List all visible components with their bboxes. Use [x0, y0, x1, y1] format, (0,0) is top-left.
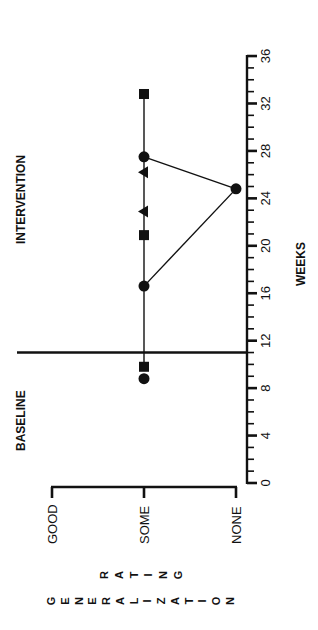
axis-title-letter: A: [114, 597, 126, 605]
square-marker: [139, 89, 149, 99]
axis-title-letter: I: [196, 599, 208, 602]
circle-marker: [139, 151, 150, 162]
week-tick-label: 8: [258, 385, 273, 392]
axis-title-letter: T: [183, 597, 195, 604]
axis-title-letter: T: [128, 571, 140, 578]
axis-title-letter: N: [224, 597, 236, 605]
rating-label-good: GOOD: [45, 504, 60, 544]
connecting-line: [144, 189, 236, 286]
triangle-marker: [138, 205, 148, 217]
connecting-line: [144, 157, 236, 189]
axis-title-letter: E: [59, 597, 71, 604]
phase-label-baseline: BASELINE: [14, 390, 28, 451]
week-tick-label: 4: [258, 432, 273, 439]
circle-marker: [231, 183, 242, 194]
rating-axis: [51, 487, 237, 498]
axis-title-letter: A: [169, 597, 181, 605]
phase-label-intervention: INTERVENTION: [14, 155, 28, 244]
axis-title-letter: R: [98, 571, 110, 579]
rating-axis-title-rating: RATING: [98, 571, 184, 580]
week-tick-label: 24: [258, 191, 273, 205]
square-marker: [139, 230, 149, 240]
data-markers: [138, 89, 242, 384]
weeks-axis-title: WEEKS: [294, 242, 308, 286]
week-tick-label: 20: [258, 239, 273, 253]
week-tick-label: 0: [258, 479, 273, 486]
axis-title-letter: A: [113, 571, 125, 579]
week-tick-label: 16: [258, 286, 273, 300]
axis-title-letter: E: [86, 597, 98, 604]
circle-marker: [139, 281, 150, 292]
axis-title-letter: Z: [155, 597, 167, 604]
week-tick-label: 32: [258, 96, 273, 110]
axis-title-letter: O: [210, 596, 222, 605]
axis-title-letter: N: [157, 571, 169, 579]
axis-title-letter: I: [141, 599, 153, 602]
rating-label-some: SOME: [137, 505, 152, 544]
square-marker: [139, 362, 149, 372]
axis-title-letter: L: [128, 597, 140, 604]
generalization-rating-chart: 04812162024283236 INTERVENTION BASELINE …: [0, 0, 318, 630]
axis-title-letter: I: [142, 573, 154, 576]
axis-title-letter: G: [45, 597, 57, 606]
week-tick-label: 12: [258, 333, 273, 347]
triangle-marker: [138, 166, 148, 178]
circle-marker: [139, 373, 150, 384]
week-tick-label: 36: [258, 49, 273, 63]
rating-label-none: NONE: [229, 506, 244, 544]
rating-axis-title-generalization: GENERALIZATION: [45, 596, 236, 605]
axis-title-letter: N: [73, 597, 85, 605]
axis-title-letter: R: [100, 597, 112, 605]
data-lines: [144, 94, 236, 367]
week-tick-label: 28: [258, 144, 273, 158]
axis-title-letter: G: [172, 571, 184, 580]
weeks-axis: 04812162024283236: [247, 49, 273, 487]
